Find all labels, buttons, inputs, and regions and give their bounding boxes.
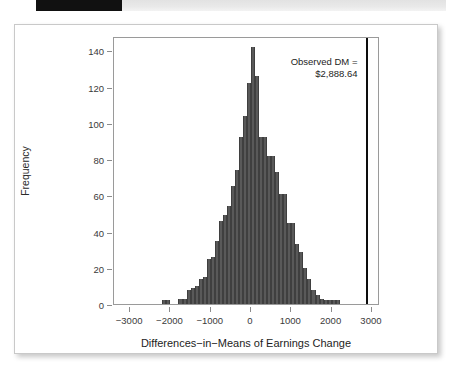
x-tick-label: 3000: [360, 315, 381, 326]
top-strip: [0, 0, 457, 12]
x-tick-mark: [371, 307, 372, 312]
y-tick-label: 140: [88, 46, 104, 57]
x-tick-label: −2000: [156, 315, 183, 326]
x-tick-label: −1000: [196, 315, 223, 326]
y-tick-label: 0: [99, 300, 104, 311]
observed-dm-annotation: Observed DM = $2,888.64: [291, 56, 358, 80]
y-tick-mark: [107, 269, 112, 270]
y-tick-label: 40: [93, 227, 104, 238]
y-tick-label: 60: [93, 191, 104, 202]
x-tick-mark: [250, 307, 251, 312]
x-tick-label: −3000: [116, 315, 143, 326]
x-tick-mark: [290, 307, 291, 312]
y-tick-label: 80: [93, 155, 104, 166]
x-tick-label: 2000: [320, 315, 341, 326]
y-tick-mark: [107, 51, 112, 52]
histogram-bar: [166, 300, 170, 304]
x-tick-mark: [169, 307, 170, 312]
y-tick-mark: [107, 233, 112, 234]
top-black-block: [36, 0, 122, 11]
observed-dm-line: [366, 38, 368, 304]
y-tick-mark: [107, 160, 112, 161]
annotation-line-2: $2,888.64: [291, 68, 358, 80]
plot-area: Observed DM = $2,888.64: [113, 37, 379, 305]
y-tick-label: 120: [88, 82, 104, 93]
x-tick-mark: [129, 307, 130, 312]
x-tick-label: 1000: [280, 315, 301, 326]
x-tick-mark: [210, 307, 211, 312]
x-axis-label: Differences−in−Means of Earnings Change: [141, 337, 351, 349]
annotation-line-1: Observed DM =: [291, 56, 358, 68]
figure-card: Frequency 020406080100120140 Observed DM…: [14, 24, 438, 354]
y-tick-mark: [107, 196, 112, 197]
y-axis-label: Frequency: [19, 146, 31, 196]
y-tick-mark: [107, 305, 112, 306]
histogram-bar: [336, 300, 340, 304]
x-tick-mark: [331, 307, 332, 312]
y-tick-label: 100: [88, 118, 104, 129]
histogram-plot: Frequency 020406080100120140 Observed DM…: [15, 25, 439, 355]
x-tick-label: 0: [247, 315, 252, 326]
y-tick-label: 20: [93, 263, 104, 274]
screenshot-page: Frequency 020406080100120140 Observed DM…: [0, 0, 457, 379]
y-tick-mark: [107, 124, 112, 125]
y-tick-mark: [107, 88, 112, 89]
